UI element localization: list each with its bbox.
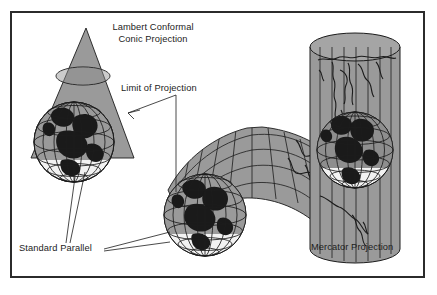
diagram-title-lambert: Lambert Conformal Conic Projection — [93, 22, 213, 45]
label-limit-of-projection: Limit of Projection — [121, 83, 197, 95]
diagram-frame — [10, 11, 425, 278]
label-mercator-projection: Mercator Projection — [311, 242, 393, 254]
diagram-title-line-1: Lambert Conformal — [93, 22, 213, 34]
diagram-title-line-2: Conic Projection — [93, 34, 213, 46]
projection-diagram-page: Lambert Conformal Conic Projection Limit… — [0, 0, 437, 295]
label-standard-parallel: Standard Parallel — [19, 243, 92, 255]
